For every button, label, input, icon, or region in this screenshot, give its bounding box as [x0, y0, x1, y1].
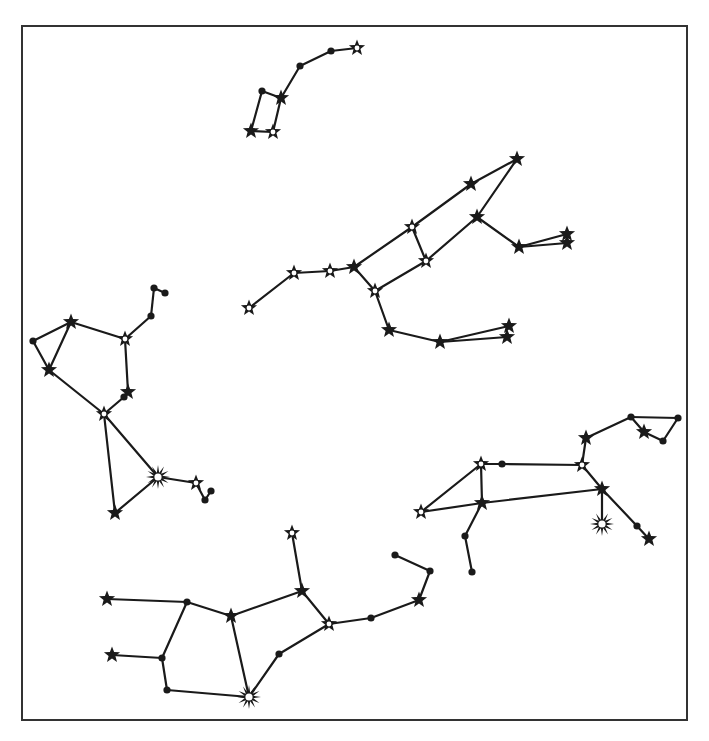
- hollow-star-icon: [349, 40, 365, 55]
- dot-star-icon: [391, 551, 398, 558]
- constellation-line: [389, 330, 440, 342]
- constellation-line: [375, 291, 389, 330]
- constellation-line: [249, 654, 279, 697]
- dot-star-icon: [183, 598, 190, 605]
- star-icon: [381, 322, 397, 337]
- star-icon: [559, 235, 575, 250]
- hollow-star-icon: [265, 124, 281, 139]
- constellation-line: [477, 159, 517, 217]
- star-icon: [99, 591, 115, 606]
- dot-star-icon: [163, 686, 170, 693]
- dot-star-icon: [627, 413, 634, 420]
- constellation-line: [354, 227, 412, 267]
- hollow-star-icon: [241, 300, 257, 315]
- constellation-line: [281, 66, 300, 98]
- constellation-line: [112, 655, 162, 658]
- constellation-line: [104, 414, 115, 513]
- constellation-line: [292, 533, 302, 591]
- constellation-line: [231, 591, 302, 616]
- star-icon: [63, 314, 79, 329]
- constellation-line: [502, 464, 582, 465]
- constellation-line: [412, 227, 426, 261]
- star-icon: [511, 239, 527, 254]
- star-icon: [501, 318, 517, 333]
- dot-star-icon: [426, 567, 433, 574]
- dot-star-icon: [468, 568, 475, 575]
- constellation-little-dipper-stars: [243, 40, 365, 139]
- star-icon: [474, 495, 490, 510]
- constellation-line: [162, 602, 187, 658]
- constellation-line: [471, 159, 517, 184]
- dot-star-icon: [147, 312, 154, 319]
- constellation-bottom-figure-stars: [99, 525, 434, 710]
- dot-star-icon: [367, 614, 374, 621]
- constellation-line: [395, 555, 430, 571]
- constellation-line: [49, 370, 104, 414]
- constellation-line: [631, 417, 678, 418]
- constellation-line: [125, 339, 128, 392]
- constellation-line: [249, 273, 294, 308]
- dot-star-icon: [461, 532, 468, 539]
- constellation-line: [251, 91, 262, 131]
- constellation-line: [167, 690, 249, 697]
- constellation-line: [151, 288, 154, 316]
- star-icon: [411, 592, 427, 607]
- dot-star-icon: [120, 393, 127, 400]
- constellation-line: [419, 571, 430, 600]
- constellation-line: [329, 618, 371, 624]
- star-icon: [509, 151, 525, 166]
- dot-star-icon: [207, 487, 214, 494]
- constellation-line: [125, 316, 151, 339]
- constellation-line: [412, 184, 471, 227]
- star-icon: [104, 647, 120, 662]
- constellation-line: [482, 489, 602, 503]
- constellation-line: [663, 418, 678, 441]
- constellation-line: [426, 217, 477, 261]
- constellation-line: [107, 599, 187, 602]
- constellation-line: [300, 51, 331, 66]
- constellation-line: [71, 322, 125, 339]
- constellation-line: [279, 624, 329, 654]
- dot-star-icon: [327, 47, 334, 54]
- star-icon: [432, 334, 448, 349]
- constellation-left-figure-lines: [33, 288, 211, 513]
- constellation-line: [49, 322, 71, 370]
- constellation-line: [104, 414, 158, 477]
- burst-star-icon: [237, 685, 261, 709]
- dot-star-icon: [633, 522, 640, 529]
- constellation-line: [477, 217, 519, 247]
- dot-star-icon: [161, 289, 168, 296]
- constellation-right-figure-lines: [421, 417, 678, 572]
- constellation-line: [162, 658, 167, 690]
- dot-star-icon: [674, 414, 681, 421]
- star-icon: [107, 505, 123, 520]
- dot-star-icon: [498, 460, 505, 467]
- constellation-bottom-figure-lines: [107, 533, 430, 697]
- constellation-line: [231, 616, 249, 697]
- constellation-line: [33, 322, 71, 341]
- constellation-line: [33, 341, 49, 370]
- dot-star-icon: [659, 437, 666, 444]
- constellation-line: [371, 600, 419, 618]
- constellation-left-figure-stars: [29, 284, 214, 519]
- dot-star-icon: [158, 654, 165, 661]
- hollow-star-icon: [574, 457, 590, 472]
- constellation-diagram: [0, 0, 709, 741]
- constellation-line: [375, 261, 426, 291]
- dot-star-icon: [150, 284, 157, 291]
- dot-star-icon: [201, 496, 208, 503]
- constellation-little-dipper-lines: [251, 48, 357, 132]
- diagram-frame: [22, 26, 687, 720]
- star-icon: [346, 259, 362, 274]
- constellation-line: [115, 477, 158, 513]
- constellation-lines: [33, 48, 678, 697]
- star-icon: [294, 583, 310, 598]
- constellation-line: [465, 536, 472, 572]
- constellation-big-dipper-bear-stars: [241, 151, 575, 349]
- burst-star-icon: [590, 512, 614, 536]
- hollow-star-icon: [322, 263, 338, 278]
- dot-star-icon: [296, 62, 303, 69]
- dot-star-icon: [258, 87, 265, 94]
- dot-star-icon: [29, 337, 36, 344]
- hollow-star-icon: [188, 475, 204, 490]
